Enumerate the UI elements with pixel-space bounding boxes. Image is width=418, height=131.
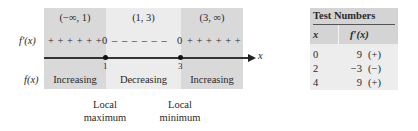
behavior-2: Decreasing bbox=[106, 74, 181, 85]
arrow-right-icon bbox=[248, 54, 256, 62]
axis-label: x bbox=[258, 50, 263, 61]
function-row-label: f(x) bbox=[24, 74, 39, 85]
local-min-line1: Local bbox=[150, 99, 210, 110]
table-row-1-x: 0 bbox=[313, 49, 318, 60]
critical-point-dot-2 bbox=[178, 55, 183, 60]
table-row-1-value: 9 bbox=[342, 49, 362, 60]
table-column-separator bbox=[338, 25, 339, 44]
sign-negative: – – – – – – bbox=[112, 35, 168, 46]
interval-label-3: (3, ∞) bbox=[181, 12, 243, 23]
tick-label-3: 3 bbox=[178, 61, 183, 71]
tick-label-1: 1 bbox=[103, 61, 108, 71]
zero-at-3: 0 bbox=[177, 35, 182, 46]
derivative-row-label: f′(x) bbox=[19, 35, 36, 46]
table-row-2-sign: (−) bbox=[368, 63, 381, 74]
table-title: Test Numbers bbox=[313, 10, 375, 21]
behavior-1: Increasing bbox=[44, 74, 106, 85]
local-max-line1: Local bbox=[75, 99, 135, 110]
table-header-fprime: f′(x) bbox=[350, 29, 369, 40]
table-row-3-sign: (+) bbox=[368, 77, 381, 88]
table-row-3-value: 9 bbox=[342, 77, 362, 88]
interval-label-2: (1, 3) bbox=[106, 12, 181, 23]
table-row-3-x: 4 bbox=[313, 77, 318, 88]
local-max-line2: maximum bbox=[75, 112, 135, 123]
number-line bbox=[44, 57, 250, 59]
table-header-x: x bbox=[313, 29, 318, 40]
table-row-2-x: 2 bbox=[313, 63, 318, 74]
behavior-3: Increasing bbox=[181, 74, 243, 85]
sign-positive-1: + + + + + + bbox=[48, 35, 102, 46]
interval-label-1: (−∞, 1) bbox=[44, 12, 106, 23]
zero-at-1: 0 bbox=[102, 35, 107, 46]
sign-positive-2: + + + + + + bbox=[187, 35, 241, 46]
table-row-1-sign: (+) bbox=[368, 49, 381, 60]
critical-point-dot-1 bbox=[103, 55, 108, 60]
table-row-2-value: −3 bbox=[342, 63, 362, 74]
local-min-line2: minimum bbox=[150, 112, 210, 123]
table-divider bbox=[313, 24, 395, 25]
